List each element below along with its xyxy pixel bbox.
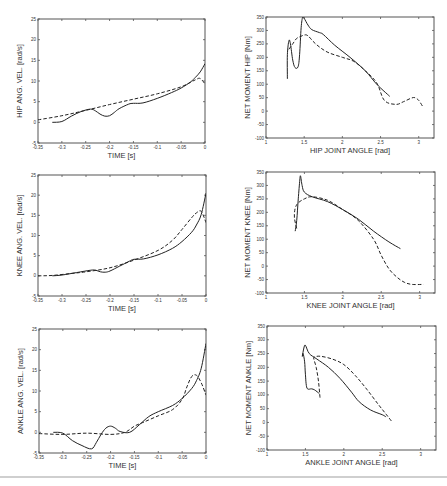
x-tick-label: 0 bbox=[205, 298, 208, 303]
subplot-ankle-net-moment: 11.522.53-100-50050100150200250300350ANK… bbox=[244, 324, 436, 467]
x-tick-label: 1 bbox=[265, 140, 268, 145]
x-tick-label: 3 bbox=[417, 140, 420, 145]
x-tick-label: -0.15 bbox=[129, 455, 140, 460]
x-tick-label: 1.5 bbox=[302, 452, 309, 457]
subplot-knee-net-moment: 11.522.53-100-50050100150200250300350KNE… bbox=[243, 170, 435, 310]
y-tick-label: 25 bbox=[31, 173, 37, 178]
x-tick-label: -0.05 bbox=[176, 145, 187, 150]
x-tick-label: 1 bbox=[265, 295, 268, 300]
y-axis-label: HIP ANG. VEL. [rad/s] bbox=[15, 44, 24, 118]
x-tick-label: -0.25 bbox=[81, 298, 92, 303]
plot-frame bbox=[38, 175, 206, 296]
y-tick-label: 20 bbox=[32, 347, 38, 352]
x-axis-label: HIP JOINT ANGLE [rad] bbox=[310, 146, 390, 155]
subplot-knee-angular-velocity: -0.35-0.3-0.25-0.2-0.15-0.1-0.050-505101… bbox=[15, 173, 208, 313]
x-tick-label: -0.1 bbox=[153, 145, 161, 150]
y-tick-label: 200 bbox=[256, 210, 264, 215]
x-tick-label: 2 bbox=[341, 140, 344, 145]
x-tick-label: -0.2 bbox=[106, 298, 114, 303]
y-tick-label: 15 bbox=[32, 368, 38, 373]
x-tick-label: -0.1 bbox=[154, 298, 162, 303]
x-axis-label: TIME [s] bbox=[109, 461, 137, 470]
y-tick-label: 5 bbox=[34, 409, 37, 414]
x-tick-label: 1 bbox=[266, 452, 269, 457]
y-tick-label: 10 bbox=[31, 79, 37, 84]
x-tick-label: 0 bbox=[204, 145, 207, 150]
series-measured bbox=[52, 64, 205, 123]
y-tick-label: 20 bbox=[31, 193, 37, 198]
y-tick-label: 0 bbox=[261, 109, 264, 114]
y-axis-label: NET MOMENT KNEE [Nm] bbox=[243, 187, 252, 278]
x-tick-label: -0.15 bbox=[128, 145, 139, 150]
series-model bbox=[294, 197, 423, 285]
x-tick-label: -0.25 bbox=[82, 455, 93, 460]
y-tick-label: 50 bbox=[259, 250, 265, 255]
y-tick-label: 0 bbox=[34, 430, 37, 435]
y-tick-label: -100 bbox=[255, 291, 265, 296]
y-tick-label: 350 bbox=[257, 324, 265, 329]
y-tick-label: 350 bbox=[256, 15, 264, 20]
y-tick-label: 0 bbox=[33, 273, 36, 278]
y-tick-label: 50 bbox=[259, 95, 265, 100]
y-tick-label: 15 bbox=[31, 213, 37, 218]
y-tick-label: -100 bbox=[256, 448, 266, 453]
x-tick-label: 0 bbox=[205, 455, 208, 460]
x-tick-label: 2.5 bbox=[378, 295, 385, 300]
x-tick-label: -0.35 bbox=[33, 298, 44, 303]
y-tick-label: 150 bbox=[256, 223, 264, 228]
y-tick-label: 5 bbox=[33, 99, 36, 104]
y-tick-label: 300 bbox=[256, 28, 264, 33]
x-tick-label: -0.35 bbox=[34, 455, 45, 460]
y-tick-label: 250 bbox=[257, 351, 265, 356]
x-tick-label: 2 bbox=[343, 452, 346, 457]
y-tick-label: 200 bbox=[257, 365, 265, 370]
y-tick-label: 250 bbox=[256, 41, 264, 46]
y-tick-label: 15 bbox=[31, 58, 37, 63]
y-tick-label: 0 bbox=[261, 264, 264, 269]
y-axis-label: NET MOMENT HIP [Nm] bbox=[243, 36, 252, 119]
x-tick-label: -0.1 bbox=[154, 455, 162, 460]
y-tick-label: 150 bbox=[256, 68, 264, 73]
x-tick-label: 3 bbox=[419, 452, 422, 457]
y-tick-label: 100 bbox=[256, 237, 264, 242]
y-tick-label: 50 bbox=[260, 406, 266, 411]
series-model bbox=[314, 356, 392, 421]
x-axis-label: ANKLE JOINT ANGLE [rad] bbox=[305, 458, 397, 467]
x-tick-label: -0.3 bbox=[59, 455, 67, 460]
subplot-ankle-angular-velocity: -0.35-0.3-0.25-0.2-0.15-0.1-0.050-505101… bbox=[16, 327, 208, 470]
x-tick-label: 1.5 bbox=[301, 295, 308, 300]
x-axis-label: TIME [s] bbox=[108, 151, 136, 160]
series-model bbox=[39, 375, 206, 435]
y-tick-label: 25 bbox=[31, 17, 37, 22]
x-tick-label: 2.5 bbox=[377, 140, 384, 145]
x-tick-label: -0.3 bbox=[58, 145, 66, 150]
series-model bbox=[289, 35, 423, 106]
series-measured bbox=[302, 345, 386, 417]
x-axis-label: TIME [s] bbox=[108, 304, 136, 313]
y-axis-label: KNEE ANG. VEL. [rad/s] bbox=[15, 195, 24, 277]
x-tick-label: -0.35 bbox=[33, 145, 44, 150]
x-tick-label: -0.2 bbox=[107, 455, 115, 460]
y-tick-label: 5 bbox=[33, 253, 36, 258]
series-model bbox=[38, 211, 206, 276]
plot-frame bbox=[267, 326, 436, 450]
plot-frame bbox=[266, 172, 435, 293]
x-tick-label: 1.5 bbox=[301, 140, 308, 145]
y-tick-label: 350 bbox=[256, 170, 264, 175]
x-tick-label: 2 bbox=[342, 295, 345, 300]
y-tick-label: -5 bbox=[32, 141, 36, 146]
y-tick-label: -50 bbox=[257, 277, 264, 282]
x-tick-label: 3 bbox=[418, 295, 421, 300]
y-tick-label: 250 bbox=[256, 196, 264, 201]
x-tick-label: -0.15 bbox=[129, 298, 140, 303]
figure: -0.35-0.3-0.25-0.2-0.15-0.1-0.050-505101… bbox=[0, 0, 447, 486]
y-axis-label: NET MOMENT ANKLE [Nm] bbox=[244, 341, 253, 435]
subplot-hip-net-moment: 11.522.53-100-50050100150200250300350HIP… bbox=[243, 15, 434, 155]
subplot-hip-angular-velocity: -0.35-0.3-0.25-0.2-0.15-0.1-0.050-505101… bbox=[15, 17, 207, 160]
page-bottom-rule bbox=[0, 476, 447, 478]
y-tick-label: -5 bbox=[33, 451, 37, 456]
y-tick-label: -50 bbox=[258, 434, 265, 439]
y-axis-label: ANKLE ANG. VEL. [rad/s] bbox=[16, 348, 25, 434]
x-tick-label: -0.05 bbox=[177, 298, 188, 303]
y-tick-label: 100 bbox=[256, 82, 264, 87]
